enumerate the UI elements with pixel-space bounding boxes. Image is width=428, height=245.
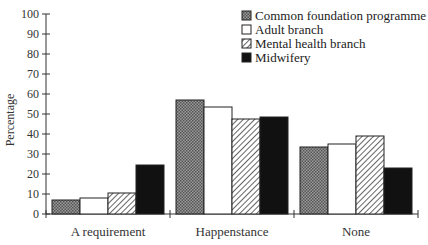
legend-swatch (242, 39, 251, 48)
y-axis-label: Percentage (3, 94, 17, 147)
bar (328, 144, 356, 214)
bar (356, 136, 384, 214)
x-category-label: Happenstance (196, 224, 269, 239)
bar (80, 198, 108, 214)
legend-swatch (242, 25, 251, 34)
bar (204, 107, 232, 214)
legend-label: Mental health branch (255, 36, 366, 51)
y-tick-label: 10 (27, 187, 39, 201)
bar-chart: 0102030405060708090100 A requirementHapp… (0, 0, 428, 245)
bar (384, 168, 412, 214)
legend-swatch (242, 11, 251, 20)
x-category-label: A requirement (71, 224, 146, 239)
y-tick-label: 50 (27, 107, 39, 121)
bar (260, 117, 288, 214)
y-tick-label: 100 (21, 7, 39, 21)
y-tick-label: 60 (27, 87, 39, 101)
legend-label: Common foundation programme (255, 8, 426, 23)
bar (52, 200, 80, 214)
y-tick-label: 30 (27, 147, 39, 161)
y-tick-label: 0 (33, 207, 39, 221)
y-tick-label: 70 (27, 67, 39, 81)
y-tick-label: 20 (27, 167, 39, 181)
legend: Common foundation programmeAdult branchM… (242, 8, 426, 65)
bar (232, 119, 260, 214)
y-tick-label: 80 (27, 47, 39, 61)
bar (136, 165, 164, 214)
bar (300, 147, 328, 214)
bar (176, 100, 204, 214)
bars (52, 100, 412, 214)
y-tick-label: 90 (27, 27, 39, 41)
x-category-label: None (342, 224, 370, 239)
y-axis: 0102030405060708090100 (21, 7, 50, 221)
legend-label: Adult branch (255, 22, 324, 37)
bar (108, 193, 136, 214)
y-tick-label: 40 (27, 127, 39, 141)
legend-label: Midwifery (255, 50, 311, 65)
legend-swatch (242, 53, 251, 62)
